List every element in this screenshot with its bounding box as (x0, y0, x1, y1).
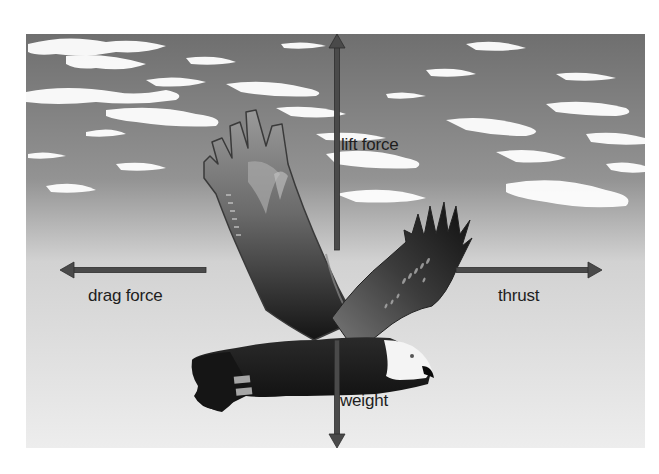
weight-label: weight (340, 392, 388, 409)
lift-force-label: lift force (341, 136, 399, 153)
drag-force-label: drag force (88, 287, 163, 304)
flight-forces-illustration (26, 34, 645, 448)
diagram-canvas: lift force drag force thrust weight (0, 0, 659, 474)
thrust-label: thrust (498, 287, 539, 304)
flight-forces-figure (26, 34, 645, 448)
